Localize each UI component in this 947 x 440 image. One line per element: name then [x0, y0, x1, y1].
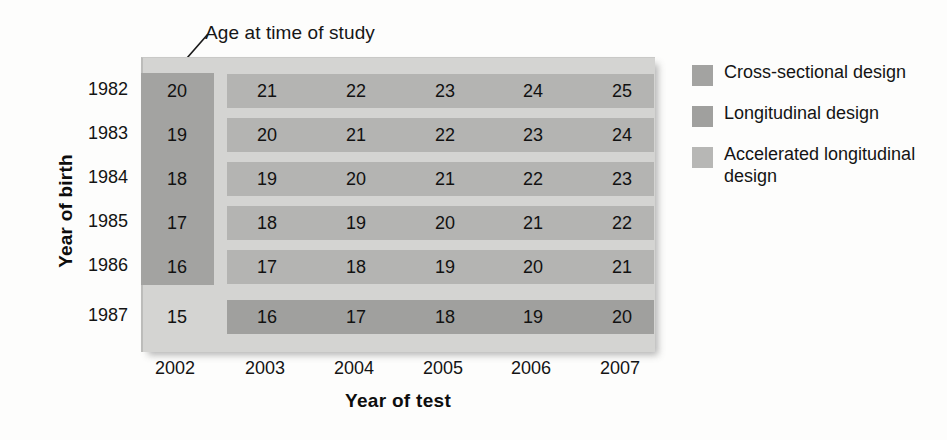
age-cell-1985-2007: 22 [595, 214, 649, 232]
age-cell-1983-2002: 19 [150, 126, 204, 144]
age-cell-1987-2003: 16 [240, 308, 294, 326]
age-cell-1983-2004: 21 [329, 126, 383, 144]
longitudinal-swatch [692, 106, 713, 127]
x-axis-tick-2007: 2007 [580, 358, 660, 379]
x-axis-title: Year of test [141, 390, 655, 412]
age-cell-1984-2007: 23 [595, 170, 649, 188]
age-cell-1982-2006: 24 [506, 82, 560, 100]
y-axis-tick-1983: 1983 [58, 123, 128, 144]
age-cell-1985-2005: 20 [418, 214, 472, 232]
legend-label: Cross-sectional design [724, 62, 906, 84]
age-cell-1985-2003: 18 [240, 214, 294, 232]
legend-label: Accelerated longitudinal design [724, 144, 929, 188]
age-cell-1983-2007: 24 [595, 126, 649, 144]
age-cell-1982-2004: 22 [329, 82, 383, 100]
cross-sectional-swatch [692, 65, 713, 86]
legend-entry-1: Cross-sectional design [692, 62, 942, 86]
age-cell-1984-2002: 18 [150, 170, 204, 188]
age-cell-1982-2005: 23 [418, 82, 472, 100]
age-cell-1984-2004: 20 [329, 170, 383, 188]
age-cell-1985-2004: 19 [329, 214, 383, 232]
age-cell-1986-2006: 20 [506, 258, 560, 276]
age-cell-1985-2002: 17 [150, 214, 204, 232]
annotation-label: Age at time of study [205, 22, 375, 44]
y-axis-tick-1984: 1984 [58, 167, 128, 188]
y-axis-tick-1987: 1987 [58, 305, 128, 326]
legend: Cross-sectional designLongitudinal desig… [692, 62, 942, 205]
x-axis-tick-2006: 2006 [491, 358, 571, 379]
age-cell-1983-2006: 23 [506, 126, 560, 144]
age-cell-1986-2002: 16 [150, 258, 204, 276]
accelerated-longitudinal-swatch [692, 147, 713, 168]
legend-entry-2: Longitudinal design [692, 103, 942, 127]
legend-label: Longitudinal design [724, 103, 879, 125]
y-axis-tick-1982: 1982 [58, 79, 128, 100]
plot-panel-inner: 2021222324251920212223241819202122231718… [143, 58, 655, 352]
age-cell-1987-2007: 20 [595, 308, 649, 326]
age-cell-1987-2002: 15 [150, 308, 204, 326]
x-axis-tick-2003: 2003 [225, 358, 305, 379]
age-cell-1987-2005: 18 [418, 308, 472, 326]
age-cell-1986-2005: 19 [418, 258, 472, 276]
legend-entry-3: Accelerated longitudinal design [692, 144, 942, 188]
age-cell-1984-2005: 21 [418, 170, 472, 188]
age-cell-1987-2006: 19 [506, 308, 560, 326]
age-cell-1985-2006: 21 [506, 214, 560, 232]
age-cell-1986-2007: 21 [595, 258, 649, 276]
age-cell-1984-2003: 19 [240, 170, 294, 188]
plot-panel: 2021222324251920212223241819202122231718… [141, 57, 655, 352]
age-cell-1986-2004: 18 [329, 258, 383, 276]
age-cell-1983-2003: 20 [240, 126, 294, 144]
age-cell-1986-2003: 17 [240, 258, 294, 276]
diagram-canvas: Age at time of study Year of birth 19821… [0, 0, 947, 440]
age-cell-1982-2003: 21 [240, 82, 294, 100]
age-cell-1987-2004: 17 [329, 308, 383, 326]
y-axis-tick-1985: 1985 [58, 211, 128, 232]
x-axis-tick-2002: 2002 [135, 358, 215, 379]
age-cell-1984-2006: 22 [506, 170, 560, 188]
x-axis-tick-2004: 2004 [314, 358, 394, 379]
age-cell-1982-2002: 20 [150, 82, 204, 100]
age-cell-1982-2007: 25 [595, 82, 649, 100]
x-axis-tick-2005: 2005 [403, 358, 483, 379]
y-axis-tick-1986: 1986 [58, 255, 128, 276]
age-cell-1983-2005: 22 [418, 126, 472, 144]
